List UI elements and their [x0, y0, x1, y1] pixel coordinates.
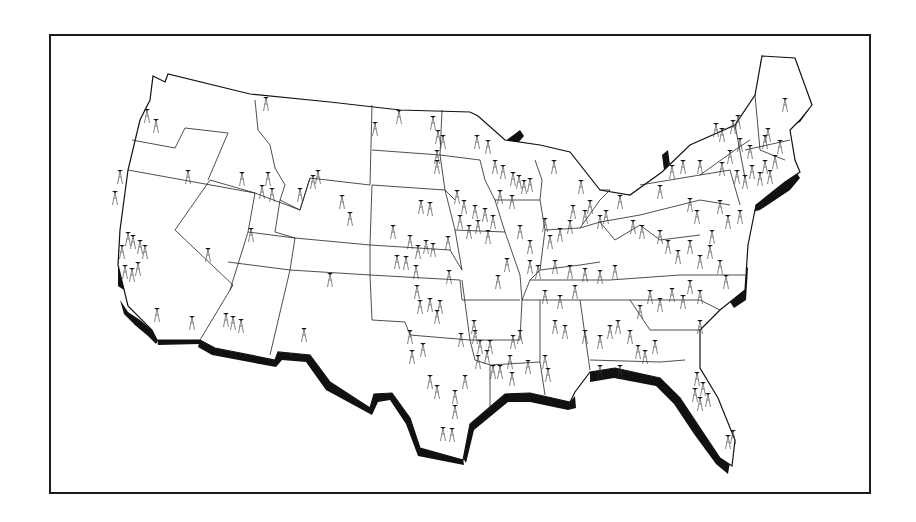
us-map — [0, 0, 916, 522]
us-outline — [118, 56, 812, 466]
